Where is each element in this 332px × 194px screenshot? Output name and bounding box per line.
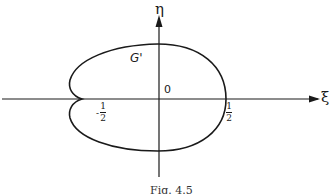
tick-label-minus-half: - 1 2	[96, 102, 106, 123]
xi-axis-label: ξ	[321, 90, 329, 105]
denominator: 2	[226, 114, 232, 123]
figure-caption: Fig. 4.5	[150, 184, 193, 194]
region-label: G'	[130, 52, 143, 64]
eta-axis-label: η	[155, 2, 164, 17]
diagram-canvas	[0, 0, 332, 194]
tick-sign: -	[96, 108, 99, 118]
curve-g-prime	[70, 44, 227, 151]
tick-label-half: 1 2	[226, 102, 232, 123]
fraction: 1 2	[100, 102, 106, 123]
origin-label: 0	[164, 84, 171, 95]
xi-axis-arrow-icon	[309, 96, 320, 103]
fraction: 1 2	[226, 102, 232, 123]
numerator: 1	[226, 102, 232, 111]
denominator: 2	[100, 114, 106, 123]
numerator: 1	[100, 102, 106, 111]
